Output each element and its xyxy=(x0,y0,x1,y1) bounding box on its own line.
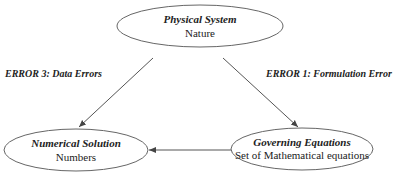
physical-system-node xyxy=(117,5,283,47)
physical-system-subtitle: Nature xyxy=(118,27,282,40)
physical-system-title: Physical System xyxy=(118,13,282,26)
edge-label-formulation-error: ERROR 1: Formulation Error xyxy=(266,67,392,80)
governing-equations-subtitle: Set of Mathematical equations xyxy=(231,149,373,162)
numerical-solution-title: Numerical Solution xyxy=(4,137,148,150)
numerical-solution-subtitle: Numbers xyxy=(4,151,148,164)
numerical-solution-node xyxy=(4,129,148,171)
edge-label-data-errors: ERROR 3: Data Errors xyxy=(5,67,102,80)
governing-equations-title: Governing Equations xyxy=(231,136,373,149)
